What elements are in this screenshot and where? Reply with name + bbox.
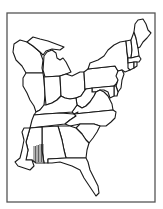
state-illinois [23,73,45,112]
eastern-us-map [0,0,163,209]
state-michigan-lower [43,50,71,77]
state-florida [48,158,99,196]
map-container [0,0,163,209]
hatch-highlight [34,144,43,162]
state-connecticut [128,62,134,70]
state-rhode-island [134,62,137,68]
